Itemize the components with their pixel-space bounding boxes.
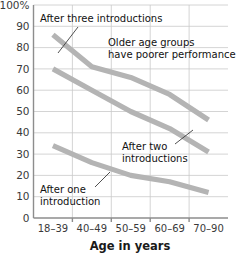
y-tick-label-90: 90 (16, 20, 29, 32)
series-line-after-two-introductions (53, 69, 209, 152)
y-tick-label-0: 0 (23, 212, 30, 224)
y-tick-label-30: 30 (16, 148, 29, 160)
x-tick-label-4: 70–90 (193, 223, 223, 234)
y-tick-label-80: 80 (16, 41, 29, 53)
y-tick-label-10: 10 (16, 190, 29, 202)
y-tick-label-70: 70 (16, 63, 29, 75)
x-tick-label-0: 18–39 (38, 223, 68, 234)
x-axis-title: Age in years (90, 239, 171, 253)
leader-after-one (95, 172, 110, 187)
chart-container: 0102030405060708090100% After three intr… (0, 0, 244, 258)
annotation-after-one: After oneintroduction (40, 184, 100, 207)
x-tick-label-3: 60–69 (154, 223, 184, 234)
y-tick-labels: 0102030405060708090100% (0, 0, 30, 224)
y-tick-label-40: 40 (16, 126, 29, 138)
annotation-line: have poorer performance (108, 49, 236, 60)
line-chart: 0102030405060708090100% After three intr… (0, 0, 244, 258)
annotation-line: introductions (122, 153, 188, 164)
annotation-after-three: After three introductions (40, 13, 162, 24)
annotation-after-two: After twointroductions (122, 141, 188, 164)
y-tick-label-20: 20 (16, 169, 29, 181)
y-tick-label-100: 100% (0, 0, 30, 11)
annotation-older-age-groups: Older age groupshave poorer performance (108, 37, 236, 60)
y-tick-label-60: 60 (16, 84, 29, 96)
x-tick-label-1: 40–49 (77, 223, 107, 234)
annotation-line: Older age groups (108, 37, 195, 48)
annotation-line: introduction (40, 196, 100, 207)
y-tick-label-50: 50 (16, 105, 29, 117)
x-tick-labels: 18–3940–4950–5960–6970–90 (38, 223, 224, 234)
annotation-line: After one (40, 184, 86, 195)
annotation-line: After three introductions (40, 13, 162, 24)
x-tick-label-2: 50–59 (116, 223, 146, 234)
annotation-line: After two (122, 141, 167, 152)
